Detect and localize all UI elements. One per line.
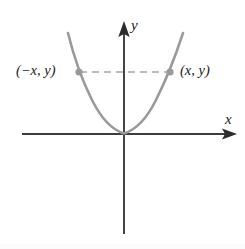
right-point-label: (x, y) bbox=[180, 63, 210, 78]
bottom-edge-band bbox=[0, 244, 245, 249]
y-axis-label: y bbox=[131, 18, 138, 33]
left-point-marker bbox=[75, 68, 82, 75]
x-axis-label: x bbox=[225, 112, 232, 127]
coordinate-plane-svg bbox=[0, 0, 245, 249]
right-point-marker bbox=[166, 68, 173, 75]
parabola-curve bbox=[68, 33, 183, 134]
left-point-label: (−x, y) bbox=[16, 63, 56, 78]
parabola-symmetry-figure: y x (−x, y) (x, y) bbox=[0, 0, 245, 249]
